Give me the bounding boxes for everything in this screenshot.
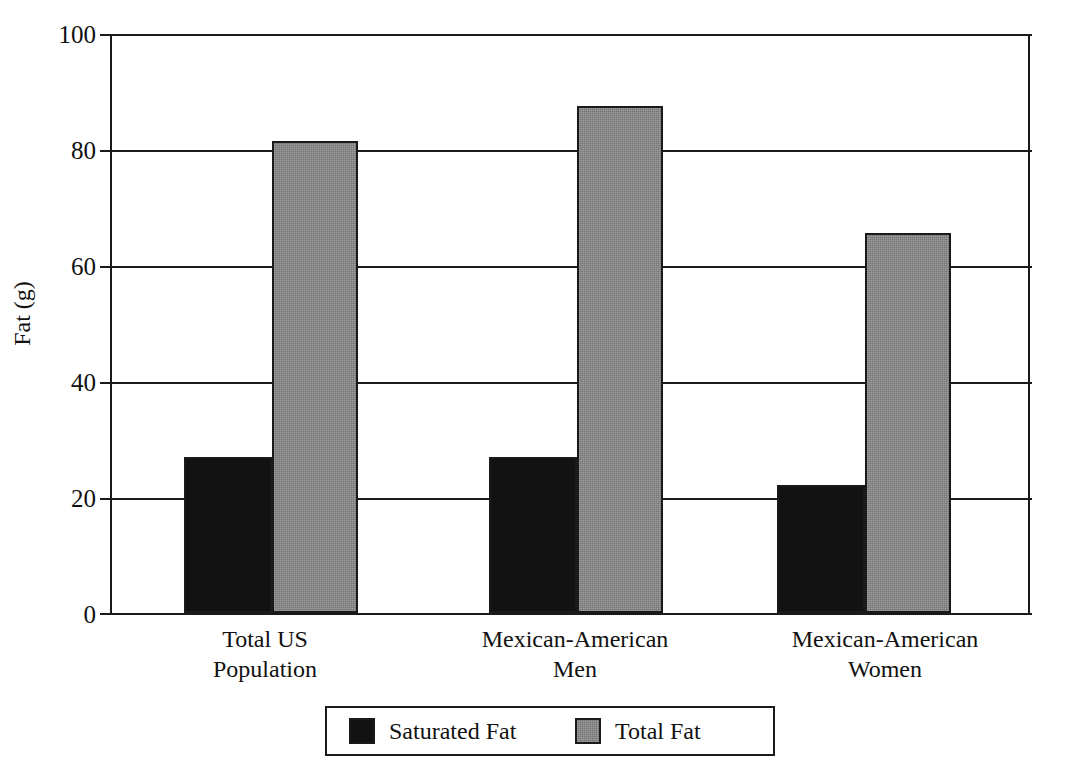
plot-area [110,34,1030,613]
bar-total-total-us[interactable] [272,141,358,613]
y-tick-label-0: 0 [26,602,96,627]
legend-label-saturated-fat: Saturated Fat [389,718,516,744]
bar-saturated-mexican-american-men[interactable] [489,457,577,613]
gridline-100 [112,34,1032,36]
y-axis: 100 80 60 40 20 0 [0,0,96,780]
legend: Saturated Fat Total Fat [325,706,775,756]
x-category-label-total-us: Total US Population [155,624,375,684]
legend-item-total-fat[interactable]: Total Fat [575,718,701,744]
x-axis [110,613,1032,615]
bar-chart: Fat (g) 100 80 60 40 20 0 Total US Popu [0,0,1065,780]
y-tick-label-60: 60 [26,254,96,279]
bar-total-mexican-american-men[interactable] [577,106,663,613]
legend-swatch-icon-total-fat [575,718,601,744]
bar-saturated-mexican-american-women[interactable] [777,485,865,613]
legend-swatch-icon-saturated-fat [349,718,375,744]
x-category-label-mexican-american-women: Mexican-American Women [760,624,1010,684]
bar-saturated-total-us[interactable] [184,457,272,613]
y-tick-label-20: 20 [26,486,96,511]
y-tick-label-40: 40 [26,370,96,395]
y-tick-label-80: 80 [26,138,96,163]
legend-item-saturated-fat[interactable]: Saturated Fat [349,718,516,744]
y-tick-label-100: 100 [26,22,96,47]
legend-label-total-fat: Total Fat [615,718,701,744]
x-category-label-mexican-american-men: Mexican-American Men [455,624,695,684]
bar-total-mexican-american-women[interactable] [865,233,951,613]
gridline-80 [112,150,1032,152]
